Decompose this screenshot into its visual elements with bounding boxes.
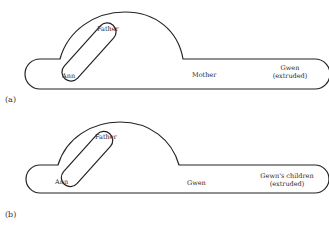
label-children-b-line1: Gewn's children [255, 172, 319, 180]
label-children-b: Gewn's children (extruded) [255, 172, 319, 188]
caption-b: (b) [5, 210, 16, 219]
diagram-canvas [0, 0, 329, 226]
label-children-b-line2: (extruded) [255, 180, 319, 188]
label-mother-a: Mother [192, 71, 216, 79]
label-ann-a: Ann [62, 72, 75, 80]
label-father-a: Father [97, 25, 119, 33]
caption-a: (a) [5, 95, 16, 104]
label-gwen-b: Gwen [187, 179, 206, 187]
label-father-b: Father [95, 133, 117, 141]
label-ann-b: Ann [55, 178, 68, 186]
label-gwen-a: Gwen (extruded) [270, 64, 310, 80]
label-gwen-a-line1: Gwen [270, 64, 310, 72]
label-gwen-a-line2: (extruded) [270, 72, 310, 80]
